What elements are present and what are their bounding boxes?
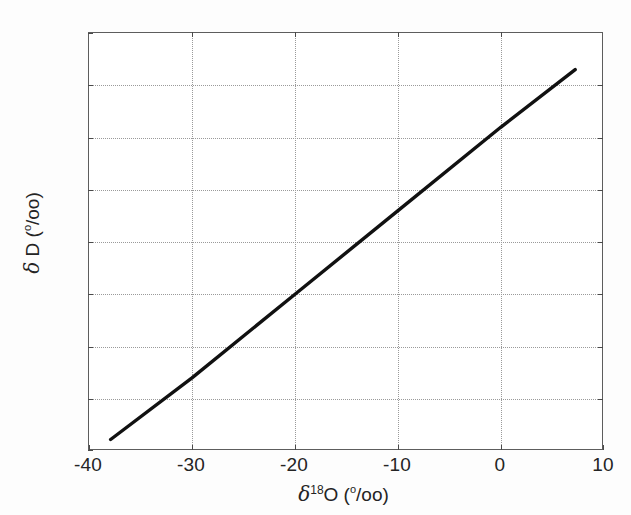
y-axis-title-rest: D ( xyxy=(22,231,43,262)
x-tick-label: -10 xyxy=(383,454,411,476)
x-tick-label: 0 xyxy=(495,454,506,476)
plot-area xyxy=(88,32,603,450)
y-axis-title-tail: /oo) xyxy=(22,192,43,225)
x-axis-title-rest: O ( xyxy=(324,484,350,505)
permil-degree-x: o xyxy=(350,483,356,495)
y-axis-title: δ D (o/oo) xyxy=(20,23,44,443)
x-axis-title: δ18O (o/oo) xyxy=(0,482,631,506)
x-tick-label: -30 xyxy=(177,454,205,476)
isotope-superscript: 18 xyxy=(310,483,323,497)
x-tick-label: -20 xyxy=(280,454,308,476)
delta-symbol-x: δ xyxy=(298,482,310,506)
meteoric-water-line xyxy=(111,70,576,440)
data-series-layer xyxy=(89,33,604,451)
x-axis-title-tail: /oo) xyxy=(356,484,389,505)
figure-canvas: 100 50 0 -50 -100 -150 -200 -250 -300 -4… xyxy=(0,0,631,515)
permil-degree-y: o xyxy=(21,225,33,231)
x-tick-label: 10 xyxy=(592,454,614,476)
x-tick-label: -40 xyxy=(74,454,102,476)
delta-symbol-y: δ xyxy=(20,262,44,274)
